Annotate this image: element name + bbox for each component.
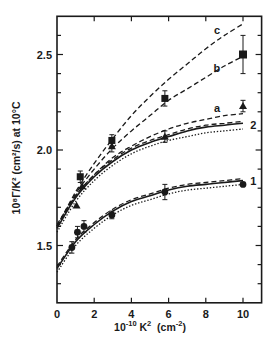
x-tick-label: 8 (203, 308, 209, 320)
circle-marker (81, 223, 88, 230)
square-marker (161, 95, 168, 102)
curve-a (57, 114, 243, 227)
triangle-marker (73, 201, 81, 208)
plot-frame (57, 16, 262, 303)
curve-label-2: 2 (250, 119, 256, 131)
circle-marker (68, 244, 75, 251)
x-tick-label: 2 (91, 308, 97, 320)
curve-label-b: b (214, 62, 221, 74)
triangle-marker (239, 102, 247, 109)
curve-2-solid (57, 123, 243, 228)
x-tick-label: 10 (237, 308, 249, 320)
curve-2-dotted (57, 129, 243, 232)
y-axis-label: 10⁸Γ/K² (cm²/s) at 10°C (10, 101, 22, 214)
square-marker (239, 51, 247, 59)
curve-labels: cba21 (214, 24, 257, 187)
circle-marker (240, 181, 247, 188)
square-marker (77, 173, 84, 180)
curve-b (57, 56, 243, 226)
curve-label-a: a (214, 102, 221, 114)
x-axis-label: 10-10 K2 (cm-2) (114, 319, 186, 333)
circle-marker (108, 212, 115, 219)
axes: 02468101.52.02.5 (37, 16, 262, 320)
y-tick-label: 1.5 (37, 240, 52, 252)
curve-1-dashed (57, 179, 243, 267)
curve-label-1: 1 (250, 175, 256, 187)
y-tick-label: 2.0 (37, 144, 52, 156)
circle-marker (161, 189, 168, 196)
x-tick-label: 6 (166, 308, 172, 320)
y-tick-label: 2.5 (37, 49, 52, 61)
chart: 02468101.52.02.5 cba21 10⁸Γ/K² (cm²/s) a… (0, 0, 274, 347)
curve-label-c: c (214, 24, 220, 36)
x-tick-label: 0 (54, 308, 60, 320)
x-tick-label: 4 (128, 308, 135, 320)
circle-marker (74, 229, 81, 236)
